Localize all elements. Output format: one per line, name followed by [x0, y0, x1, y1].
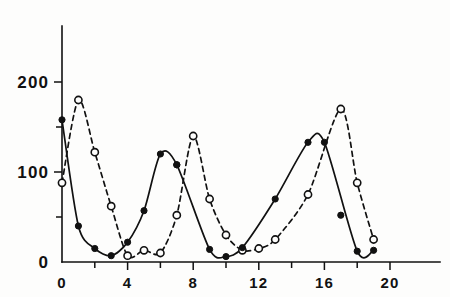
data-point-filled: [174, 162, 180, 168]
x-tick-label: 8: [188, 274, 197, 291]
x-axis-tick-labels: 048121620: [57, 274, 399, 291]
data-point-open: [370, 236, 377, 243]
data-point-open: [157, 249, 164, 256]
data-point-filled: [338, 212, 344, 218]
data-point-open: [173, 212, 180, 219]
axes-group: [62, 26, 440, 262]
y-tick-label: 200: [17, 73, 49, 92]
data-point-filled: [272, 196, 278, 202]
data-point-filled: [305, 139, 311, 145]
data-point-filled: [92, 245, 98, 251]
data-point-open: [190, 132, 197, 139]
data-point-filled: [239, 245, 245, 251]
data-point-open: [206, 195, 213, 202]
data-point-filled: [157, 151, 163, 157]
y-axis-tick-labels: 0100200: [17, 73, 49, 272]
line-chart-plot: 0100200 048121620: [0, 0, 450, 297]
data-point-open: [91, 149, 98, 156]
x-axis-ticks: [95, 262, 390, 270]
data-point-filled: [354, 248, 360, 254]
data-point-filled: [75, 223, 81, 229]
data-point-filled: [141, 208, 147, 214]
y-tick-label: 100: [17, 163, 49, 182]
data-point-open: [337, 105, 344, 112]
y-axis-ticks: [54, 82, 62, 217]
x-tick-label: 12: [249, 274, 268, 291]
x-tick-label: 16: [315, 274, 334, 291]
data-point-filled: [321, 139, 327, 145]
data-point-open: [222, 231, 229, 238]
series-dashed-markers: [58, 96, 377, 259]
series-dashed-line: [62, 100, 374, 258]
data-point-open: [108, 203, 115, 210]
data-point-filled: [125, 239, 131, 245]
data-point-filled: [371, 247, 377, 253]
data-point-filled: [108, 253, 114, 259]
chart-figure: 0100200 048121620: [0, 0, 450, 297]
x-tick-label: 4: [123, 274, 132, 291]
series-solid-markers: [59, 117, 377, 260]
x-tick-label: 20: [381, 274, 400, 291]
data-point-open: [304, 191, 311, 198]
y-tick-label: 0: [38, 253, 49, 272]
data-point-open: [75, 96, 82, 103]
x-tick-label: 0: [57, 274, 66, 291]
data-point-open: [58, 179, 65, 186]
data-point-open: [255, 245, 262, 252]
data-point-filled: [59, 117, 65, 123]
data-point-filled: [223, 254, 229, 260]
data-point-open: [140, 247, 147, 254]
data-point-open: [272, 236, 279, 243]
data-point-open: [354, 179, 361, 186]
data-point-filled: [207, 246, 213, 252]
data-point-open: [124, 252, 131, 259]
